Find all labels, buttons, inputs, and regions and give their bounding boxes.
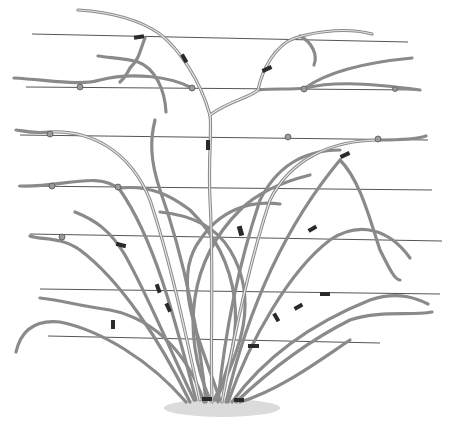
trained-shrub-drawing: [0, 0, 450, 436]
plant-illustration: [0, 0, 450, 436]
cane-highlights: [50, 10, 380, 402]
